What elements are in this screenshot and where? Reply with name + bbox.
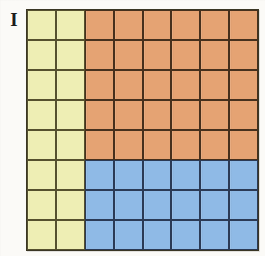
grid-cell	[200, 190, 229, 220]
grid-cell	[171, 40, 200, 70]
grid-cell	[143, 70, 172, 100]
grid-cell	[27, 160, 56, 190]
grid-cell	[171, 190, 200, 220]
grid-cell	[143, 220, 172, 250]
grid-cell	[229, 190, 258, 220]
part-label: I	[5, 9, 23, 31]
grid-cell	[27, 10, 56, 40]
grid-cell	[200, 100, 229, 130]
grid-cell	[143, 10, 172, 40]
grid-cell	[56, 130, 85, 160]
grid-cell	[200, 40, 229, 70]
grid-cell	[85, 190, 114, 220]
grid-cell	[56, 190, 85, 220]
grid-cell	[143, 160, 172, 190]
grid-cell	[114, 130, 143, 160]
grid-cell	[85, 160, 114, 190]
grid-cell	[85, 220, 114, 250]
grid-cell	[171, 10, 200, 40]
grid-cell	[171, 160, 200, 190]
grid-cell	[85, 100, 114, 130]
grid-cell	[27, 40, 56, 70]
grid-cell	[114, 160, 143, 190]
grid-cell	[229, 160, 258, 190]
grid-cell	[171, 70, 200, 100]
grid-cell	[85, 130, 114, 160]
grid-cell	[171, 100, 200, 130]
grid-cell	[143, 190, 172, 220]
grid-cell	[85, 40, 114, 70]
grid-cell	[171, 220, 200, 250]
grid-cell	[143, 40, 172, 70]
grid-cell	[56, 40, 85, 70]
grid-cell	[85, 10, 114, 40]
grid-cell	[27, 130, 56, 160]
grid-cell	[200, 10, 229, 40]
grid-cell	[114, 10, 143, 40]
grid-cell	[114, 100, 143, 130]
grid-cell	[114, 40, 143, 70]
grid-cell	[200, 130, 229, 160]
grid-cell	[56, 70, 85, 100]
grid-cell	[56, 10, 85, 40]
grid-cell	[27, 100, 56, 130]
color-grid	[27, 10, 258, 250]
grid-cell	[171, 130, 200, 160]
grid-cell	[56, 160, 85, 190]
grid-cell	[27, 70, 56, 100]
figure-root: I	[0, 0, 265, 256]
grid-cell	[114, 220, 143, 250]
grid-cell	[229, 40, 258, 70]
grid-cell	[114, 70, 143, 100]
grid-cell	[200, 160, 229, 190]
grid-cell	[200, 220, 229, 250]
grid-cell	[85, 70, 114, 100]
grid-cell	[56, 220, 85, 250]
grid-cell	[143, 130, 172, 160]
grid-cell	[229, 220, 258, 250]
grid-cell	[27, 190, 56, 220]
grid-cell	[229, 70, 258, 100]
grid-cell	[27, 220, 56, 250]
grid-cell	[200, 70, 229, 100]
grid-cell	[114, 190, 143, 220]
grid-cell	[229, 130, 258, 160]
grid-cell	[229, 100, 258, 130]
grid-cell	[56, 100, 85, 130]
grid-cell	[229, 10, 258, 40]
grid-cell	[143, 100, 172, 130]
